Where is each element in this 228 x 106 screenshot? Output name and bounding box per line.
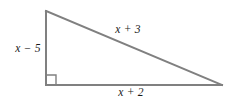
label-hypotenuse: x + 3 (115, 24, 140, 36)
triangle-hypotenuse (46, 11, 222, 85)
right-angle-marker-icon (46, 75, 56, 85)
label-vertical-leg: x − 5 (15, 43, 40, 55)
label-horizontal-leg: x + 2 (118, 87, 143, 99)
right-triangle-figure: x − 5 x + 3 x + 2 (0, 0, 228, 106)
